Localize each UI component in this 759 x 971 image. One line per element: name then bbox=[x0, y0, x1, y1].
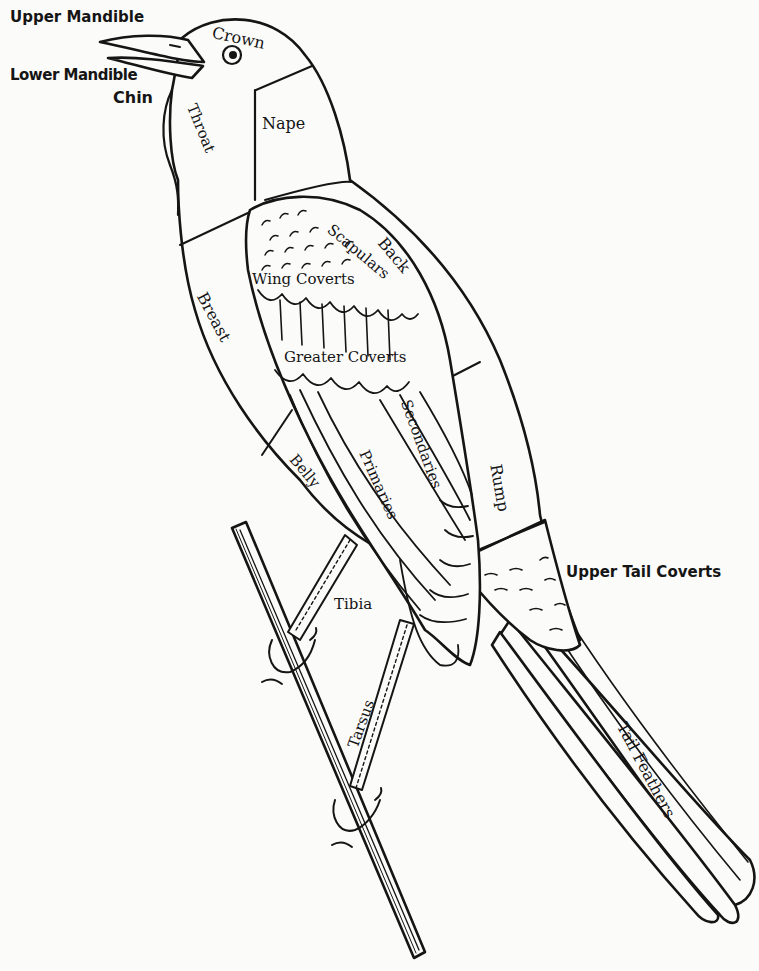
label-upper-mandible: Upper Mandible bbox=[10, 10, 144, 25]
label-lower-mandible: Lower Mandible bbox=[10, 68, 137, 83]
tail-feathers bbox=[492, 605, 754, 923]
bird-anatomy-diagram: Upper Mandible Lower Mandible Chin Crown… bbox=[0, 0, 759, 971]
label-chin: Chin bbox=[113, 90, 153, 106]
label-upper-tail-coverts: Upper Tail Coverts bbox=[566, 565, 721, 580]
label-tibia: Tibia bbox=[334, 597, 372, 612]
label-wing-coverts: Wing Coverts bbox=[252, 272, 355, 287]
label-greater-coverts: Greater Coverts bbox=[284, 350, 407, 365]
label-nape: Nape bbox=[262, 116, 305, 132]
legs bbox=[262, 535, 414, 847]
